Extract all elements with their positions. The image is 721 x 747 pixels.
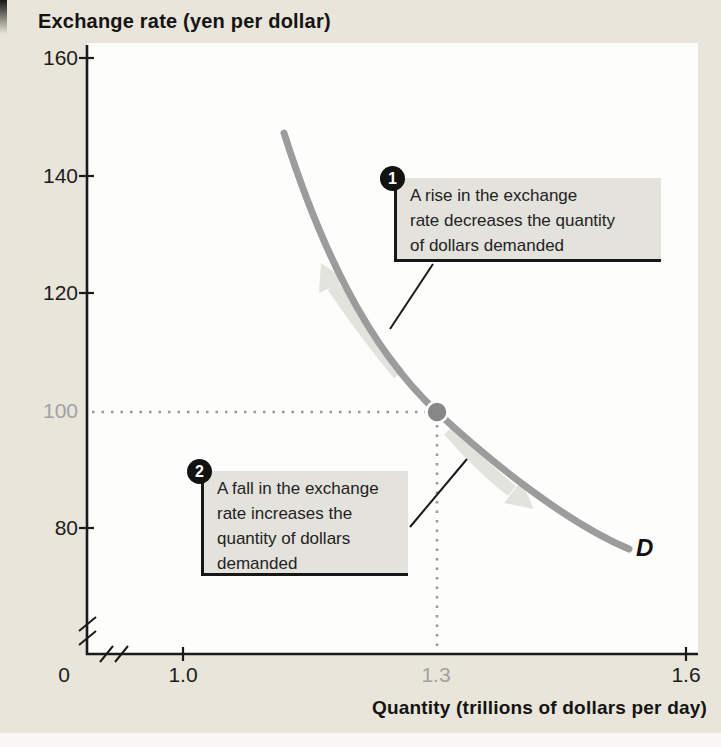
callout-1-line-1: A rise in the exchange [410, 183, 661, 208]
demand-curve-label: D [636, 534, 653, 562]
callout-1: A rise in the exchange rate decreases th… [394, 178, 661, 262]
callout-2-line-3: quantity of dollars [217, 526, 408, 551]
x-tick-label-1-3: 1.3 [421, 663, 450, 687]
y-tick-label-80: 80 [18, 516, 78, 540]
callout-1-leader-line [390, 264, 433, 329]
y-axis-title: Exchange rate (yen per dollar) [38, 10, 331, 33]
y-tick-label-100: 100 [18, 399, 78, 423]
callout-2-number-badge: 2 [187, 459, 212, 484]
x-tick-label-1-0: 1.0 [168, 663, 197, 687]
callout-2-line-2: rate increases the [217, 501, 408, 526]
x-tick-label-0: 0 [58, 663, 70, 687]
y-tick-label-160: 160 [18, 46, 78, 70]
y-tick-label-140: 140 [18, 164, 78, 188]
callout-2-leader-line [410, 459, 467, 527]
chart-canvas [0, 0, 721, 747]
callout-1-line-2: rate decreases the quantity [410, 208, 661, 233]
figure-demand-for-dollars: Exchange rate (yen per dollar) Quantity … [0, 0, 721, 747]
movement-arrow-down-icon [449, 430, 534, 509]
y-tick-label-120: 120 [18, 281, 78, 305]
callout-2-line-4: demanded [217, 551, 408, 576]
highlight-point [427, 402, 448, 423]
callout-1-line-3: of dollars demanded [410, 233, 661, 258]
callout-1-number: 1 [388, 170, 397, 188]
x-axis-title: Quantity (trillions of dollars per day) [372, 697, 707, 719]
x-tick-label-1-6: 1.6 [671, 663, 700, 687]
callout-1-number-badge: 1 [380, 166, 405, 191]
callout-2: A fall in the exchange rate increases th… [201, 471, 408, 576]
callout-2-number: 2 [195, 463, 204, 481]
callout-2-line-1: A fall in the exchange [217, 476, 408, 501]
